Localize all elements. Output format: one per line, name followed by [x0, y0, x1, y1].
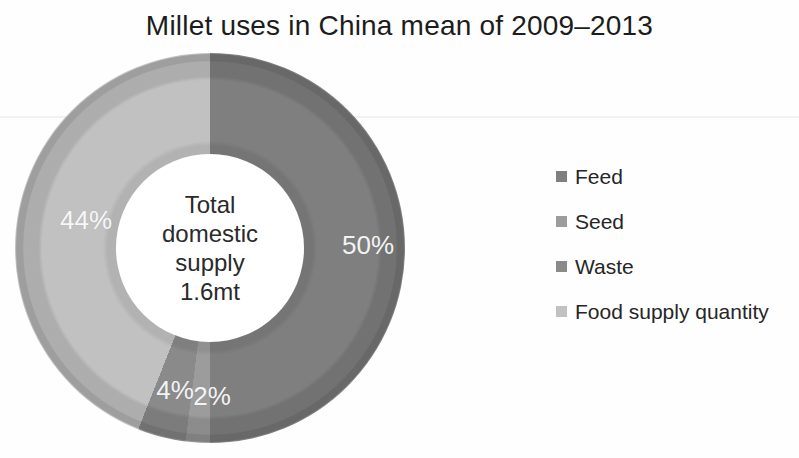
legend-item-waste: Waste	[556, 244, 769, 289]
center-label-line: domestic	[162, 219, 258, 248]
chart-legend: Feed Seed Waste Food supply quantity	[556, 154, 769, 334]
legend-item-seed: Seed	[556, 199, 769, 244]
legend-item-feed: Feed	[556, 154, 769, 199]
donut-chart: 50% 2% 4% 44% Total domestic supply 1.6m…	[15, 53, 405, 443]
legend-swatch	[556, 171, 567, 182]
legend-label: Waste	[575, 255, 634, 279]
donut-center: Total domestic supply 1.6mt	[116, 154, 304, 342]
chart-title: Millet uses in China mean of 2009–2013	[0, 10, 799, 42]
legend-label: Food supply quantity	[575, 300, 769, 324]
legend-swatch	[556, 216, 567, 227]
legend-label: Seed	[575, 210, 624, 234]
center-label-line: supply	[175, 248, 244, 277]
slice-label-seed: 2%	[193, 381, 231, 412]
legend-swatch	[556, 261, 567, 272]
legend-swatch	[556, 306, 567, 317]
slice-label-feed: 50%	[342, 230, 394, 261]
center-label-line: 1.6mt	[180, 277, 240, 306]
slice-label-food-supply: 44%	[60, 205, 112, 236]
legend-label: Feed	[575, 165, 623, 189]
legend-item-food-supply: Food supply quantity	[556, 289, 769, 334]
chart-figure: Millet uses in China mean of 2009–2013 5…	[0, 0, 799, 458]
slice-label-waste: 4%	[156, 375, 194, 406]
center-label-line: Total	[185, 190, 236, 219]
